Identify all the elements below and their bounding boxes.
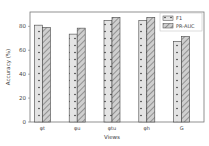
bar-f1: [139, 20, 147, 122]
y-tick-label: 0: [23, 119, 27, 125]
x-tick-label: φt: [40, 125, 45, 132]
bar-pr-auc: [77, 28, 85, 122]
bar-f1: [69, 34, 77, 122]
bar-pr-auc: [42, 28, 50, 122]
legend-label: F1: [176, 15, 182, 21]
y-axis-label: Accuracy (%): [5, 49, 12, 85]
x-tick-label: φh: [144, 125, 150, 132]
x-axis-label: Views: [104, 134, 120, 140]
bar-f1: [34, 25, 42, 122]
bar-pr-auc: [147, 17, 155, 122]
bar-chart: 020406080Accuracy (%)φtφuφtuφhGViewsF1PR…: [0, 0, 209, 146]
bar-pr-auc: [182, 37, 190, 122]
bar-f1: [174, 41, 182, 122]
x-tick-label: φu: [74, 125, 80, 132]
legend-label: PR-AUC: [176, 23, 195, 29]
y-tick-label: 80: [19, 23, 26, 29]
x-tick-label: G: [180, 125, 184, 131]
y-tick-label: 20: [19, 95, 26, 101]
y-tick-label: 40: [19, 71, 26, 77]
y-tick-label: 60: [19, 47, 26, 53]
bar-f1: [104, 20, 112, 122]
legend: F1PR-AUC: [160, 13, 202, 31]
x-tick-label: φtu: [108, 125, 116, 132]
bar-pr-auc: [112, 17, 120, 122]
